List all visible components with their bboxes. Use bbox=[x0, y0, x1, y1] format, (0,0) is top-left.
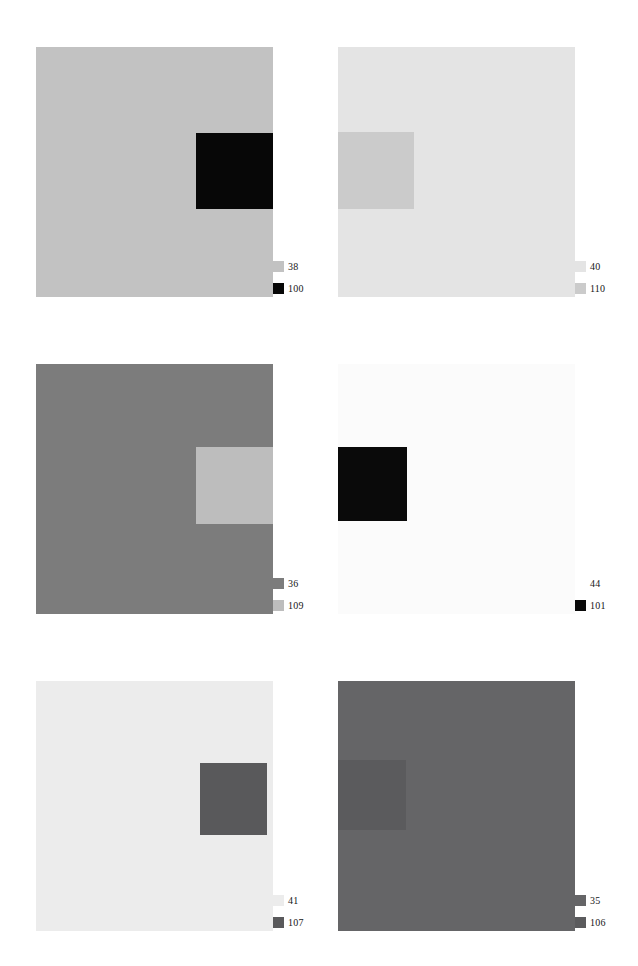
plate-inner-patch bbox=[338, 132, 414, 209]
plate-legend: 38 100 bbox=[273, 257, 339, 301]
plate-legend: 44 101 bbox=[575, 574, 638, 618]
legend-value-background: 36 bbox=[288, 578, 298, 589]
plate-panel-5: 35 106 bbox=[338, 681, 575, 931]
plate-inner-patch bbox=[338, 760, 406, 830]
legend-value-patch: 110 bbox=[590, 283, 605, 294]
plate-grid: 38 100 40 110 36 bbox=[0, 0, 638, 966]
legend-row-background: 44 bbox=[575, 574, 638, 593]
legend-swatch-background bbox=[273, 895, 284, 906]
legend-row-patch: 109 bbox=[273, 596, 339, 615]
legend-swatch-patch bbox=[575, 283, 586, 294]
legend-swatch-background bbox=[273, 261, 284, 272]
legend-row-background: 35 bbox=[575, 891, 638, 910]
legend-value-background: 44 bbox=[590, 578, 600, 589]
legend-value-background: 38 bbox=[288, 261, 298, 272]
plate-inner-patch bbox=[338, 447, 407, 521]
legend-row-patch: 106 bbox=[575, 913, 638, 932]
plate-legend: 40 110 bbox=[575, 257, 638, 301]
legend-swatch-background bbox=[575, 895, 586, 906]
legend-swatch-patch bbox=[273, 917, 284, 928]
legend-row-patch: 101 bbox=[575, 596, 638, 615]
legend-row-background: 40 bbox=[575, 257, 638, 276]
legend-value-patch: 107 bbox=[288, 917, 304, 928]
plate-inner-patch bbox=[196, 447, 273, 524]
legend-value-patch: 106 bbox=[590, 917, 606, 928]
legend-row-patch: 107 bbox=[273, 913, 339, 932]
plate-inner-patch bbox=[200, 763, 267, 835]
legend-swatch-background bbox=[575, 261, 586, 272]
legend-value-background: 35 bbox=[590, 895, 600, 906]
legend-row-background: 36 bbox=[273, 574, 339, 593]
legend-value-patch: 100 bbox=[288, 283, 304, 294]
legend-swatch-background bbox=[575, 578, 586, 589]
plate-panel-2: 36 109 bbox=[36, 364, 273, 614]
plate-legend: 41 107 bbox=[273, 891, 339, 935]
legend-swatch-patch bbox=[575, 600, 586, 611]
plate-inner-patch bbox=[196, 133, 273, 209]
legend-swatch-patch bbox=[273, 283, 284, 294]
legend-value-patch: 101 bbox=[590, 600, 606, 611]
legend-value-background: 41 bbox=[288, 895, 298, 906]
legend-row-patch: 110 bbox=[575, 279, 638, 298]
plate-panel-3: 44 101 bbox=[338, 364, 575, 614]
plate-panel-0: 38 100 bbox=[36, 47, 273, 297]
legend-value-background: 40 bbox=[590, 261, 600, 272]
legend-row-background: 38 bbox=[273, 257, 339, 276]
legend-row-patch: 100 bbox=[273, 279, 339, 298]
legend-value-patch: 109 bbox=[288, 600, 304, 611]
plate-panel-4: 41 107 bbox=[36, 681, 273, 931]
legend-row-background: 41 bbox=[273, 891, 339, 910]
plate-legend: 35 106 bbox=[575, 891, 638, 935]
legend-swatch-patch bbox=[575, 917, 586, 928]
plate-legend: 36 109 bbox=[273, 574, 339, 618]
legend-swatch-background bbox=[273, 578, 284, 589]
legend-swatch-patch bbox=[273, 600, 284, 611]
plate-panel-1: 40 110 bbox=[338, 47, 575, 297]
